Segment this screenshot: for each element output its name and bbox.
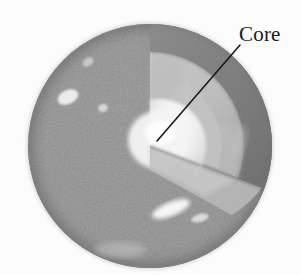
core-label: Core bbox=[239, 24, 281, 45]
planet-cutaway-figure: Core bbox=[0, 0, 302, 275]
